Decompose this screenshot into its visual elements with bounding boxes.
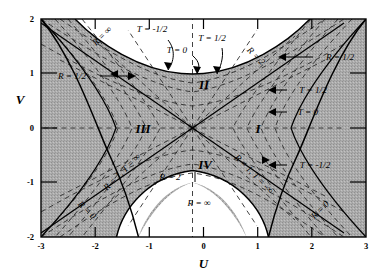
x-tick-label-2: 2 (310, 241, 314, 251)
y-tick-label-0: 0 (30, 123, 34, 133)
label-R-infinity-bottom: R = ∞ (187, 198, 211, 208)
label-R-half-left: R = 1/2 (57, 71, 87, 81)
x-tick-label-neg1: -1 (146, 241, 153, 251)
label-R-two-bottom: R = 2 (159, 172, 181, 182)
region-label-II: II (198, 77, 210, 92)
label-T-minus-half-right: T = -1/2 (300, 160, 331, 170)
x-tick-label-neg3: -3 (37, 241, 44, 251)
y-tick-label-1: 1 (30, 68, 34, 78)
x-axis-label: U (199, 256, 209, 271)
x-tick-label-0: 0 (201, 241, 205, 251)
region-label-III: III (134, 121, 151, 136)
label-T-zero-top: T = 0 (167, 45, 188, 55)
label-T-half-right: T = 1/2 (299, 85, 327, 95)
region-label-IV: IV (197, 157, 213, 172)
y-axis-label: V (16, 92, 26, 107)
y-tick-label-neg1: -1 (27, 177, 34, 187)
label-T-half-top: T = 1/2 (198, 33, 226, 43)
x-tick-label-3: 3 (364, 241, 368, 251)
region-label-I: I (254, 121, 261, 136)
figure-canvas: 2 1 0 -1 -2 -3 -2 -1 0 1 2 3 V U I II II… (0, 0, 385, 279)
kruskal-szekeres-figure: 2 1 0 -1 -2 -3 -2 -1 0 1 2 3 V U I II II… (0, 0, 385, 279)
label-T-minus-half-top: T = -1/2 (137, 24, 168, 34)
y-tick-label-neg2: -2 (27, 232, 34, 242)
y-tick-label-2: 2 (30, 14, 34, 24)
label-T-zero-right: T = 0 (298, 107, 319, 117)
label-R-half-right: R = 1/2 (325, 52, 355, 62)
x-tick-label-1: 1 (256, 241, 260, 251)
x-tick-label-neg2: -2 (92, 241, 99, 251)
